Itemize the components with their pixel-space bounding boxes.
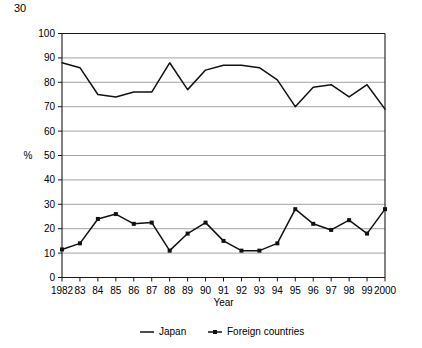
data-point-marker [168, 249, 172, 253]
y-tick-label: 40 [44, 174, 56, 185]
x-tick-label: 1982 [51, 285, 74, 296]
data-point-marker [311, 222, 315, 226]
line-chart: 0102030405060708090100 19828384858687888… [0, 0, 422, 348]
data-point-marker [204, 221, 208, 225]
chart-legend: JapanForeign countries [140, 326, 304, 337]
y-tick-label: 100 [38, 28, 55, 39]
data-point-marker [150, 221, 154, 225]
x-tick-label: 91 [218, 285, 230, 296]
data-point-marker [383, 207, 387, 211]
data-point-marker [222, 239, 226, 243]
x-tick-label: 88 [164, 285, 176, 296]
legend-label: Japan [159, 326, 186, 337]
data-point-marker [293, 207, 297, 211]
y-tick-label: 80 [44, 77, 56, 88]
x-axis-title: Year [213, 297, 234, 308]
x-tick-label: 85 [110, 285, 122, 296]
x-tick-label: 98 [344, 285, 356, 296]
data-series-group [60, 63, 387, 253]
data-point-marker [114, 212, 118, 216]
y-tick-label: 50 [44, 150, 56, 161]
y-tick-label: 90 [44, 52, 56, 63]
data-point-marker [365, 232, 369, 236]
legend-item-2: Foreign countries [208, 326, 304, 337]
x-tick-label: 89 [182, 285, 194, 296]
y-tick-label: 0 [49, 272, 55, 283]
x-tick-label: 96 [308, 285, 320, 296]
x-tick-label: 93 [254, 285, 266, 296]
x-tick-label: 90 [200, 285, 212, 296]
data-point-marker [132, 222, 136, 226]
legend-swatch-marker [213, 330, 217, 334]
x-tick-label: 87 [146, 285, 158, 296]
data-point-marker [347, 218, 351, 222]
data-point-marker [275, 241, 279, 245]
x-tick-label: 84 [92, 285, 104, 296]
y-axis-label: % [24, 150, 33, 161]
y-axis-ticks-group: 0102030405060708090100 [38, 28, 62, 283]
data-point-marker [96, 217, 100, 221]
data-point-marker [186, 232, 190, 236]
y-tick-label: 10 [44, 248, 56, 259]
x-tick-label: 2000 [374, 285, 397, 296]
x-tick-label: 99 [361, 285, 373, 296]
series-line-2 [62, 209, 385, 250]
data-point-marker [257, 249, 261, 253]
y-tick-label: 70 [44, 101, 56, 112]
chart-canvas: 0102030405060708090100 19828384858687888… [0, 0, 422, 348]
data-point-marker [60, 247, 64, 251]
y-tick-label: 20 [44, 223, 56, 234]
x-axis-ticks-group: 1982838485868788899091929394959697989920… [51, 278, 397, 296]
y-tick-label: 60 [44, 126, 56, 137]
x-tick-label: 97 [326, 285, 338, 296]
legend-label: Foreign countries [227, 326, 304, 337]
data-point-marker [78, 241, 82, 245]
data-point-marker [329, 228, 333, 232]
x-tick-label: 94 [272, 285, 284, 296]
x-tick-label: 83 [74, 285, 86, 296]
x-tick-label: 86 [128, 285, 140, 296]
y-tick-label: 30 [44, 199, 56, 210]
x-tick-label: 92 [236, 285, 248, 296]
legend-item-1: Japan [140, 326, 186, 337]
x-tick-label: 95 [290, 285, 302, 296]
series-line-1 [62, 63, 385, 109]
data-point-marker [239, 249, 243, 253]
